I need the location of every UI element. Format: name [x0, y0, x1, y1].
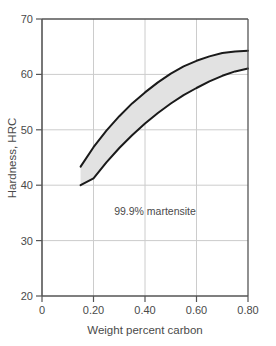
y-axis-title: Hardness, HRC	[6, 118, 18, 199]
x-tick-label-080: 0.80	[237, 304, 258, 316]
y-tick-label-60: 60	[21, 68, 33, 80]
hardness-vs-carbon-chart: 70 60 50 40 30 20 0 0.20 0.40 0.60 0.80 …	[0, 0, 276, 346]
y-tick-label-30: 30	[21, 235, 33, 247]
y-tick-label-20: 20	[21, 290, 33, 302]
x-tick-marks	[42, 296, 248, 302]
x-tick-label-0: 0	[39, 304, 45, 316]
x-axis-title: Weight percent carbon	[87, 324, 203, 336]
y-tick-label-70: 70	[21, 13, 33, 25]
y-tick-label-50: 50	[21, 124, 33, 136]
y-tick-labels: 70 60 50 40 30 20	[21, 13, 33, 302]
x-tick-labels: 0 0.20 0.40 0.60 0.80	[39, 304, 259, 316]
x-tick-label-040: 0.40	[134, 304, 155, 316]
y-tick-marks	[36, 19, 42, 296]
chart-container: 70 60 50 40 30 20 0 0.20 0.40 0.60 0.80 …	[0, 0, 276, 346]
martensite-annotation: 99.9% martensite	[114, 205, 196, 217]
y-tick-label-40: 40	[21, 179, 33, 191]
x-tick-label-020: 0.20	[83, 304, 104, 316]
x-tick-label-060: 0.60	[186, 304, 207, 316]
